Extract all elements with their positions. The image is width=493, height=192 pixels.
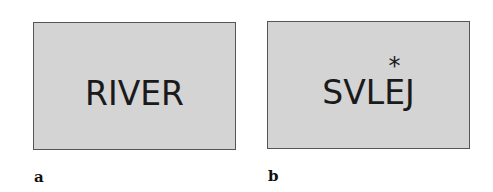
letter-v: V: [343, 76, 366, 109]
panel-label-a: a: [34, 168, 44, 186]
asterisk-icon: *: [389, 54, 401, 78]
letter-e-marked: *E: [384, 76, 405, 109]
word-river: RIVER: [85, 77, 184, 110]
letter-l: L: [366, 76, 384, 109]
panel-label-b: b: [268, 167, 279, 185]
letter-j: J: [405, 76, 415, 109]
word-svlej: SVL*EJ: [322, 76, 415, 109]
panel-a: RIVER: [33, 22, 236, 150]
letter-s: S: [322, 76, 343, 109]
panel-b: SVL*EJ: [267, 21, 470, 149]
